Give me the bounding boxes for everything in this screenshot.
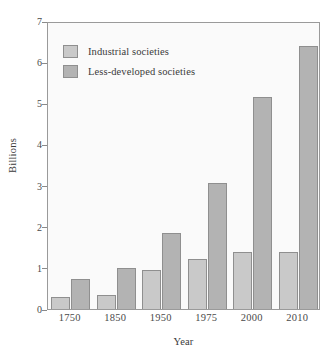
bar-1975-series-1 [208, 183, 227, 309]
bar-2010-series-1 [299, 46, 318, 309]
x-axis-title: Year [47, 336, 320, 347]
bar-2000-series-1 [253, 97, 272, 309]
bar-1850-series-1 [117, 268, 136, 309]
legend-swatch-icon [63, 45, 78, 58]
bar-2010-series-0 [279, 252, 298, 309]
x-axis-tick-label: 1975 [195, 312, 217, 323]
y-axis-tick-label: 6 [37, 58, 47, 68]
y-axis-tick-label: 4 [37, 140, 47, 150]
y-axis-tick-label: 1 [37, 264, 47, 274]
bar-2000-series-0 [233, 252, 252, 309]
x-axis-tick-label: 1850 [104, 312, 126, 323]
y-axis-title: Billions [7, 111, 18, 201]
legend-swatch-icon [63, 65, 78, 78]
x-axis-tick-label: 2010 [286, 312, 308, 323]
y-axis-tick-label: 7 [37, 17, 47, 27]
y-axis-tick-label: 5 [37, 99, 47, 109]
x-axis-tick-label: 1750 [59, 312, 81, 323]
legend-label: Less-developed societies [88, 66, 195, 77]
bar-1750-series-1 [71, 279, 90, 309]
y-axis-tick-label: 2 [37, 223, 47, 233]
x-axis: 175018501950197520002010 [47, 312, 320, 332]
y-axis-tick-label: 0 [37, 305, 47, 315]
legend-label: Industrial societies [88, 46, 169, 57]
bar-1950-series-1 [162, 233, 181, 309]
population-bar-chart: 01234567 Billions 1750185019501975200020… [0, 0, 336, 358]
bar-1950-series-0 [142, 270, 161, 309]
chart-legend: Industrial societiesLess-developed socie… [63, 44, 195, 84]
bar-1850-series-0 [97, 295, 116, 309]
x-axis-tick-label: 1950 [150, 312, 172, 323]
bar-1975-series-0 [188, 259, 207, 309]
bar-1750-series-0 [51, 297, 70, 309]
x-axis-tick-label: 2000 [241, 312, 263, 323]
y-axis-tick-label: 3 [37, 182, 47, 192]
legend-item-0: Industrial societies [63, 44, 195, 59]
legend-item-1: Less-developed societies [63, 64, 195, 79]
